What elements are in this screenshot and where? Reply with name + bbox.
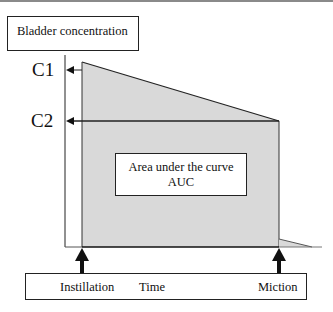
instillation-arrow-shaft <box>80 259 84 273</box>
auc-label-line1: Area under the curve <box>116 160 246 175</box>
c1-label: C1 <box>32 60 54 79</box>
miction-arrow-shaft <box>277 259 281 273</box>
y-axis-label-box: Bladder concentration <box>7 16 139 51</box>
miction-arrowhead <box>272 248 286 261</box>
c1-arrowhead <box>66 66 74 74</box>
miction-label: Miction <box>258 280 298 295</box>
auc-label-box: Area under the curve AUC <box>115 153 247 196</box>
y-axis-label: Bladder concentration <box>17 24 128 38</box>
instillation-label: Instillation <box>60 280 114 295</box>
c2-arrowhead <box>66 117 74 125</box>
instillation-arrowhead <box>75 248 89 261</box>
x-axis-label-box: Instillation Time Miction <box>25 273 307 300</box>
auc-label-line2: AUC <box>116 175 246 190</box>
x-axis-label: Time <box>139 280 165 295</box>
c2-label: C2 <box>31 111 53 130</box>
